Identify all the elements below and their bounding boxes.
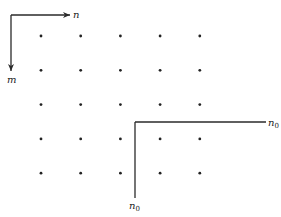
lattice-point bbox=[40, 69, 43, 72]
n0-vertical-label: n0 bbox=[129, 200, 140, 213]
lattice-point bbox=[159, 69, 162, 72]
lattice-point bbox=[198, 35, 201, 38]
lattice-point bbox=[40, 103, 43, 106]
lattice-point bbox=[119, 138, 122, 141]
m-axis-label: m bbox=[7, 74, 16, 85]
lattice-point bbox=[119, 35, 122, 38]
lattice-point bbox=[119, 69, 122, 72]
n-axis-label: n bbox=[73, 9, 79, 20]
lattice-point bbox=[40, 138, 43, 141]
lattice-point bbox=[119, 103, 122, 106]
lattice-point bbox=[40, 35, 43, 38]
lattice-point bbox=[198, 69, 201, 72]
lattice-point bbox=[159, 103, 162, 106]
lattice-point bbox=[198, 103, 201, 106]
lattice-points bbox=[40, 35, 202, 175]
lattice-point bbox=[79, 172, 82, 175]
lattice-point bbox=[159, 138, 162, 141]
diagram-canvas: n m n0 n0 bbox=[0, 0, 281, 217]
lattice-point bbox=[119, 172, 122, 175]
lattice-point bbox=[40, 172, 43, 175]
n0-horizontal-label: n0 bbox=[268, 117, 279, 130]
n0-v-subscript: 0 bbox=[135, 205, 139, 213]
n0-h-subscript: 0 bbox=[274, 122, 278, 130]
lattice-point bbox=[159, 35, 162, 38]
lattice-point bbox=[79, 69, 82, 72]
lattice-point bbox=[198, 138, 201, 141]
lattice-point bbox=[79, 138, 82, 141]
lattice-point bbox=[79, 103, 82, 106]
lattice-point bbox=[79, 35, 82, 38]
lattice-point bbox=[198, 172, 201, 175]
lattice-point bbox=[159, 172, 162, 175]
